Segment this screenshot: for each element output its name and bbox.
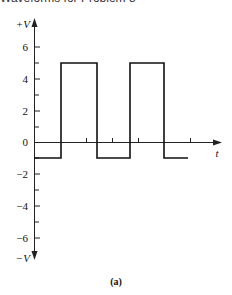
x-axis-arrow-icon — [213, 140, 222, 146]
waveform-chart: 6 4 2 0 −2 −4 −6 +V −V t (a) — [0, 0, 232, 295]
ytick-label-neg2: −2 — [16, 168, 28, 180]
x-ticks — [87, 138, 191, 143]
ytick-label-0: 0 — [23, 136, 29, 148]
y-axis-up-arrow-icon — [32, 18, 38, 27]
figure-caption: (a) — [110, 276, 122, 288]
x-axis-label: t — [215, 147, 219, 159]
ytick-label-neg6: −6 — [16, 232, 28, 244]
ytick-label-neg4: −4 — [16, 200, 28, 212]
ytick-label-6: 6 — [23, 41, 29, 53]
y-axis-down-arrow-icon — [32, 251, 38, 260]
y-axis-label-negative: −V — [16, 252, 31, 264]
ytick-label-4: 4 — [23, 73, 29, 85]
y-axis-label-positive: +V — [16, 18, 31, 30]
ytick-label-2: 2 — [23, 105, 29, 117]
square-wave-series — [35, 63, 189, 158]
